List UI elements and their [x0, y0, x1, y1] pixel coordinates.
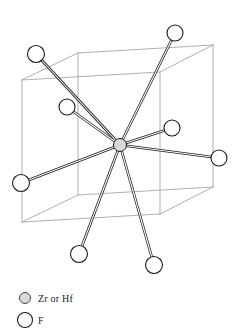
legend: Zr or Hf F — [12, 287, 172, 331]
metal-atom-center — [114, 139, 127, 152]
legend-label-metal: Zr or Hf — [38, 293, 73, 304]
fluorine-atom-F1 — [167, 25, 183, 41]
bond-core-F8 — [120, 145, 154, 265]
bond-core-F5 — [120, 145, 219, 158]
cell-edge-back-bottom — [78, 187, 213, 195]
bond-core-F3 — [67, 107, 120, 145]
fluorine-circle-icon — [12, 311, 38, 329]
fluorine-atom-F4 — [164, 120, 180, 136]
crystal-structure-figure: Zr or Hf F — [0, 0, 237, 336]
fluorine-atom-F7 — [71, 246, 88, 263]
cell-edge-connect-br — [160, 187, 213, 214]
legend-label-fluorine: F — [38, 315, 44, 326]
cell-edge-front-top — [22, 72, 160, 80]
legend-item-metal: Zr or Hf — [12, 287, 172, 309]
fluorine-atom-F3 — [59, 99, 75, 115]
structure-drawing — [0, 0, 237, 336]
bond-core-F6 — [21, 145, 120, 183]
fluorine-atom-F6 — [13, 175, 30, 192]
legend-item-fluorine: F — [12, 309, 172, 331]
cell-edge-connect-bl — [22, 195, 78, 222]
cell-edge-back-top — [78, 45, 213, 53]
metal-circle-icon — [12, 290, 38, 306]
fluorine-atom-F8 — [146, 257, 163, 274]
bond-core-F7 — [79, 145, 120, 254]
fluorine-atom-F5 — [211, 150, 227, 166]
fluorine-atom-F2 — [28, 46, 45, 63]
